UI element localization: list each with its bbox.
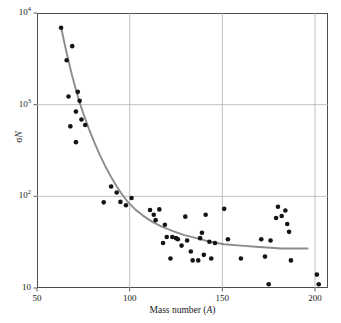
x-tick-label: 200 xyxy=(298,294,332,303)
x-axis-title: Mass number (A) xyxy=(37,305,328,315)
y-axis-title: σN xyxy=(14,120,24,154)
y-tick-label: 104 xyxy=(1,8,31,17)
y-tick-label: 10 xyxy=(1,283,31,292)
y-axis-title-prefix: σ xyxy=(14,138,24,143)
y-tick-label: 103 xyxy=(1,100,31,109)
x-axis-title-suffix: ) xyxy=(212,305,215,315)
x-tick-label: 150 xyxy=(205,294,239,303)
y-tick-label: 102 xyxy=(1,191,31,200)
plot-area xyxy=(37,13,328,288)
x-tick-label: 100 xyxy=(113,294,147,303)
y-axis-title-symbol: N xyxy=(14,131,24,137)
x-tick-label: 50 xyxy=(20,294,54,303)
x-axis-title-prefix: Mass number ( xyxy=(150,305,207,315)
figure: 10102103104 50100150200 Mass number (A) … xyxy=(0,0,341,323)
